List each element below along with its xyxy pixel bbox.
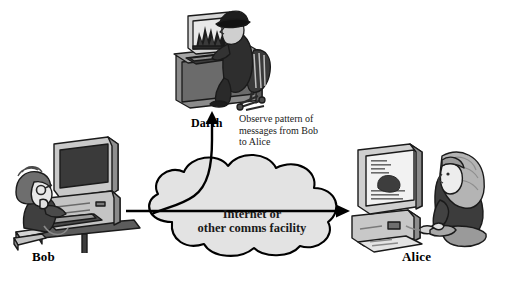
- label-bob: Bob: [32, 249, 55, 265]
- figure-canvas: Bob Darth Alice Internet or other comms …: [0, 0, 511, 281]
- label-alice: Alice: [402, 249, 431, 265]
- darth-art: [166, 8, 286, 116]
- bob-art: [8, 128, 143, 253]
- observe-annotation: Observe pattern of messages from Bob to …: [239, 113, 334, 148]
- cloud-label: Internet or other comms facility: [172, 207, 332, 235]
- alice-art: [344, 134, 504, 256]
- label-darth: Darth: [191, 116, 223, 131]
